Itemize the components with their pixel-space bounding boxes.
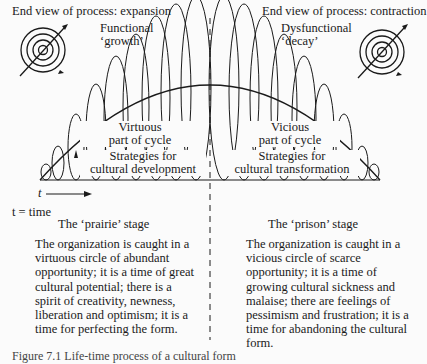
up-arrow-icon — [74, 150, 78, 158]
left-header: End view of process: expansion — [12, 4, 171, 19]
contraction-spiral-icon — [358, 28, 404, 78]
prison-stage-title: The ‘prison’ stage — [268, 218, 358, 231]
time-axis-symbol: t — [38, 187, 41, 200]
prison-stage-description: The organization is caught in a vicious … — [246, 237, 411, 351]
functional-growth-label: Functional ‘growth’ — [100, 22, 153, 48]
label-line: cultural development — [80, 163, 206, 176]
label-line: part of cycle — [80, 134, 200, 147]
figure-caption: Figure 7.1 Life-time process of a cultur… — [12, 349, 236, 364]
prairie-stage-title: The ‘prairie’ stage — [58, 218, 149, 231]
label-line: ‘decay’ — [281, 35, 352, 48]
prairie-stage-description: The organization is caught in a virtuous… — [35, 237, 200, 336]
right-header: End view of process: contraction — [262, 4, 427, 19]
label-line: ‘growth’ — [100, 35, 153, 48]
label-line: part of cycle — [240, 134, 340, 147]
label-line: cultural transformation — [224, 163, 360, 176]
vicious-cycle-label: Vicious part of cycle — [240, 121, 340, 147]
dysfunctional-decay-label: Dysfunctional ‘decay’ — [281, 22, 352, 48]
virtuous-cycle-label: Virtuous part of cycle — [80, 121, 200, 147]
development-strategies-label: Strategies for cultural development — [80, 150, 206, 176]
time-legend: t = time — [12, 206, 51, 219]
expansion-spiral-icon — [20, 28, 65, 76]
transformation-strategies-label: Strategies for cultural transformation — [224, 150, 360, 176]
time-arrow-head-icon — [84, 191, 92, 197]
